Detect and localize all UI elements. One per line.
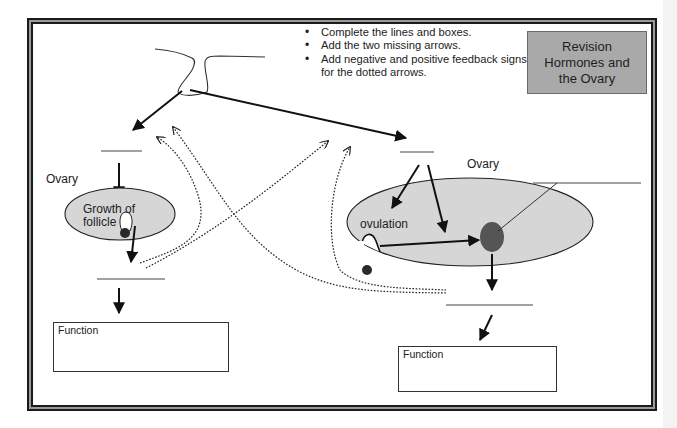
ovulation-label: ovulation [360, 217, 408, 231]
instructions-list: Complete the lines and boxes. Add the tw… [303, 26, 541, 79]
title-box: Revision Hormones and the Ovary [527, 31, 647, 94]
pituitary-to-left-hormone-arrow [133, 91, 182, 130]
instruction-item: Complete the lines and boxes. [321, 26, 541, 39]
title-line: the Ovary [559, 71, 615, 87]
title-line: Revision [562, 39, 612, 55]
corpus-luteum [480, 222, 504, 252]
right-ovary-label: Ovary [467, 157, 499, 171]
ovary-notch-gap [356, 241, 364, 269]
right-hormone-to-function-arrow [480, 315, 492, 340]
pituitary-to-right-hormone-arrow [190, 90, 406, 138]
right-function-box[interactable]: Function [398, 346, 557, 392]
instruction-item: Add the two missing arrows. [321, 39, 541, 52]
function-label: Function [403, 348, 443, 360]
function-label: Function [58, 324, 98, 336]
growth-of-follicle-label-2: follicle [83, 215, 116, 229]
instruction-item: Add negative and positive feedback signs… [321, 53, 541, 80]
feedback-arrow-left-to-pituitary-2[interactable] [146, 141, 328, 268]
pituitary-gland-outline [155, 49, 265, 95]
growth-of-follicle-label-1: Growth of [83, 202, 135, 216]
title-line: Hormones and [544, 55, 629, 71]
left-egg-cell [120, 228, 130, 238]
left-ovary-label: Ovary [46, 172, 78, 186]
left-function-box[interactable]: Function [53, 322, 229, 372]
released-egg-cell [362, 265, 372, 275]
